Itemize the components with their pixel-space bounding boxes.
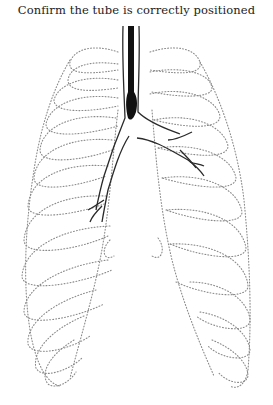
endotracheal-tube bbox=[126, 26, 137, 120]
airway bbox=[88, 26, 204, 222]
chest-illustration bbox=[0, 0, 273, 405]
right-rib-cage bbox=[150, 48, 250, 387]
left-rib-cage bbox=[22, 48, 118, 386]
